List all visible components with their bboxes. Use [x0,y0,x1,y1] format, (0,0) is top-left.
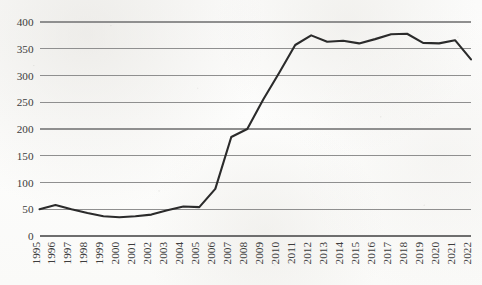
x-tick-label: 1995 [30,242,42,265]
x-tick-label: 2003 [157,242,169,265]
x-tick-label: 2007 [221,242,233,265]
y-tick-label: 0 [28,230,34,242]
data-series [40,34,472,218]
x-tick-label: 2000 [109,242,121,265]
x-tick-label: 2001 [125,242,137,264]
y-axis-labels: 050100150200250300350400 [17,16,34,242]
y-tick-label: 200 [17,123,34,135]
x-tick-label: 2021 [445,242,457,264]
x-tick-label: 2011 [285,242,297,264]
series-line [40,34,472,218]
x-tick-label: 2006 [205,242,217,265]
x-tick-label: 2019 [413,242,425,265]
x-tick-label: 2022 [461,242,473,264]
x-tick-label: 1998 [77,242,89,265]
y-tick-label: 100 [17,177,34,189]
y-tick-label: 400 [17,16,34,28]
line-chart: 050100150200250300350400 199519961997199… [0,0,482,285]
x-tick-label: 2010 [269,242,281,265]
x-tick-label: 2004 [173,242,185,265]
x-tick-label: 1996 [45,242,57,265]
x-tick-label: 2008 [237,242,249,265]
x-tick-label: 2014 [333,242,345,265]
y-tick-label: 50 [22,203,34,215]
gridlines [40,22,472,236]
x-tick-label: 2009 [253,242,265,265]
chart-container: 050100150200250300350400 199519961997199… [0,0,482,285]
x-tick-label: 2018 [397,242,409,265]
y-tick-label: 150 [17,150,34,162]
x-axis-labels: 1995199619971998199920002001200220032004… [30,242,474,265]
x-tick-label: 1997 [61,242,73,265]
x-tick-label: 2013 [317,242,329,265]
y-tick-label: 300 [17,70,34,82]
x-tick-label: 2020 [429,242,441,265]
x-tick-label: 2012 [301,242,313,264]
x-tick-label: 2017 [381,242,393,265]
x-tick-label: 2015 [349,242,361,265]
y-tick-label: 250 [17,96,34,108]
x-tick-label: 2005 [189,242,201,265]
y-tick-label: 350 [17,43,34,55]
x-tick-label: 1999 [93,242,105,265]
x-tick-label: 2016 [365,242,377,265]
x-tick-label: 2002 [141,242,153,264]
